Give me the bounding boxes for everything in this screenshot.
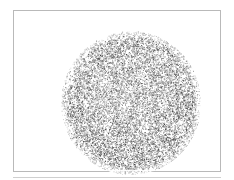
baseline-rule <box>13 177 221 178</box>
figure-root <box>0 0 234 180</box>
plate-frame <box>13 10 221 172</box>
stipple-disc <box>61 31 201 175</box>
stipple-disc-canvas <box>61 31 201 175</box>
stipple-dot-group <box>61 31 201 175</box>
